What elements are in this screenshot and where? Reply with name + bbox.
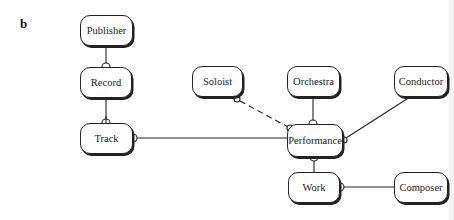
entity-publisher[interactable]: Publisher <box>80 15 133 46</box>
edge-soloist-performance <box>240 101 288 127</box>
relationship-lines <box>0 0 454 220</box>
entity-work[interactable]: Work <box>288 172 340 203</box>
entity-record[interactable]: Record <box>80 67 132 98</box>
entity-performance[interactable]: Performance <box>287 124 343 157</box>
crowsfoot-icon <box>340 183 344 191</box>
entity-soloist[interactable]: Soloist <box>192 66 243 97</box>
crowsfoot-icon <box>133 134 137 142</box>
entity-orchestra[interactable]: Orchestra <box>287 66 340 97</box>
entity-conductor[interactable]: Conductor <box>394 66 448 97</box>
entity-composer[interactable]: Composer <box>394 172 448 203</box>
crowsfoot-icon <box>310 157 318 161</box>
optional-circle-icon <box>234 96 240 102</box>
edge-conductor-performance <box>346 97 410 138</box>
entity-track[interactable]: Track <box>80 123 133 154</box>
